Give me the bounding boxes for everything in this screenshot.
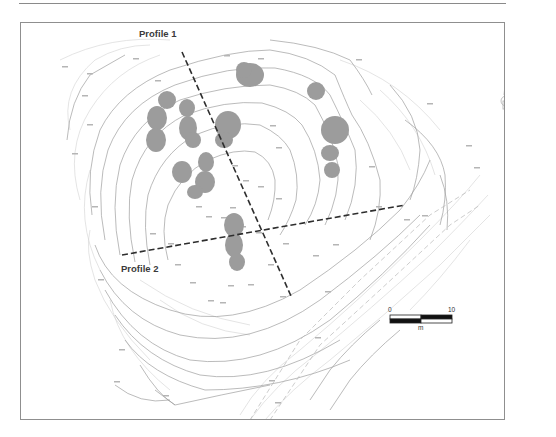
- profile-1-label: Profile 1: [139, 28, 177, 39]
- profile-2-line: [122, 205, 405, 255]
- boundary-lines: [250, 190, 480, 420]
- contour-lines: [67, 40, 448, 410]
- scale-end-label: 10: [448, 306, 455, 313]
- scale-start-label: 0: [388, 306, 392, 313]
- profile-2-label: Profile 2: [121, 263, 159, 274]
- scale-bar: [390, 315, 452, 323]
- profile-lines: [122, 52, 405, 296]
- north-arrow-icon: [501, 75, 511, 109]
- topographic-map: [0, 0, 556, 437]
- scale-unit-label: m: [418, 324, 423, 331]
